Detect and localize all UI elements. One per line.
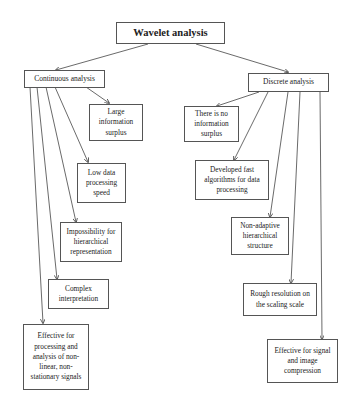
c1-label: Large information surplus (93, 107, 139, 138)
d4-label: Rough resolution on the scaling scale (247, 289, 313, 310)
node-rough-resolution: Rough resolution on the scaling scale (243, 283, 317, 316)
c2-label: Low data processing speed (81, 168, 122, 199)
arrow-discrete-to-d5 (320, 92, 322, 339)
arrow-continuous-to-c3 (46, 87, 76, 222)
arrow-root-to-discrete (196, 44, 288, 72)
arrow-discrete-to-d3 (270, 92, 288, 217)
node-effective-nonlinear-signals: Effective for processing and analysis of… (23, 324, 89, 390)
arrow-discrete-to-d2 (234, 92, 268, 160)
root-label: Wavelet analysis (133, 28, 207, 38)
arrow-discrete-to-d1 (217, 92, 259, 106)
arrow-root-to-continuous (56, 44, 148, 70)
node-impossibility-hierarchical: Impossibility for hierarchical represent… (60, 222, 122, 262)
arrow-continuous-to-c1 (86, 87, 109, 103)
continuous-label: Continuous analysis (34, 74, 95, 84)
node-discrete-analysis: Discrete analysis (248, 73, 329, 92)
node-no-information-surplus: There is no information surplus (184, 106, 239, 142)
d1-label: There is no information surplus (188, 109, 235, 140)
arrow-discrete-to-d4 (291, 92, 300, 283)
node-fast-algorithms: Developed fast algorithms for data proce… (195, 160, 269, 200)
d3-label: Non-adaptive hierarchical structure (235, 221, 285, 252)
node-low-data-processing-speed: Low data processing speed (77, 163, 126, 203)
node-large-information-surplus: Large information surplus (89, 104, 143, 141)
discrete-label: Discrete analysis (263, 77, 314, 87)
d2-label: Developed fast algorithms for data proce… (199, 165, 265, 196)
node-effective-compression: Effective for signal and image compressi… (267, 339, 338, 383)
node-continuous-analysis: Continuous analysis (24, 70, 105, 88)
c4-label: Complex interpretation (52, 284, 105, 305)
c3-label: Impossibility for hierarchical represent… (64, 227, 118, 258)
d5-label: Effective for signal and image compressi… (271, 346, 334, 377)
node-complex-interpretation: Complex interpretation (48, 279, 109, 309)
arrow-continuous-to-c4 (37, 87, 57, 279)
node-non-adaptive-hierarchical: Non-adaptive hierarchical structure (231, 217, 289, 255)
root-node-wavelet-analysis: Wavelet analysis (116, 22, 225, 44)
c5-label: Effective for processing and analysis of… (27, 331, 85, 382)
